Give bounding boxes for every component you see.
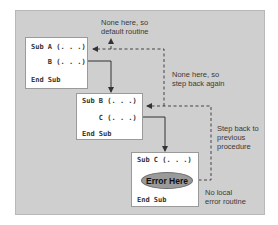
annotation-step-back-again: None here, so step back again <box>172 70 225 88</box>
annotation-default-routine: None here, so default routine <box>101 18 149 36</box>
sub-b-line-1: Sub B (. . .) <box>82 97 137 105</box>
sub-c-line-1: Sub C (. . .) <box>137 156 192 164</box>
sub-a-line-1: Sub A (. . .) <box>31 43 86 51</box>
annotation-step-back-previous: Step back to previous procedure <box>217 124 259 151</box>
call-arrow-b-to-c <box>143 117 165 151</box>
sub-b-line-3: End Sub <box>82 130 112 138</box>
sub-c-line-2: End Sub <box>137 196 167 204</box>
error-here-ellipse: Error Here <box>141 172 193 189</box>
sub-a-line-2: B (. . .) <box>31 58 86 66</box>
sub-b-line-2: C (. . .) <box>82 114 137 122</box>
call-arrow-a-to-b <box>88 61 111 92</box>
annotation-no-local-error: No local error routine <box>205 188 246 206</box>
sub-a-line-3: End Sub <box>31 76 61 84</box>
sub-b-box: Sub B (. . .) C (. . .) End Sub <box>76 93 143 140</box>
sub-a-box: Sub A (. . .) B (. . .) End Sub <box>25 37 88 89</box>
